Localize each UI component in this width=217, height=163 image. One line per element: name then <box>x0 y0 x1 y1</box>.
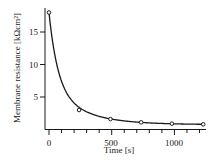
x-tick-0: 0 <box>47 138 52 148</box>
y-tick-labels: 5 10 15 <box>29 27 39 102</box>
data-point <box>201 123 205 127</box>
data-points <box>47 11 205 126</box>
y-tick-5: 5 <box>34 92 39 102</box>
x-tick-1000: 1000 <box>165 138 184 148</box>
data-point <box>77 108 81 112</box>
axes <box>45 8 206 130</box>
x-ticks <box>49 130 199 136</box>
data-point <box>139 121 143 125</box>
y-axis-label: Membrane resistance [kΩcm²] <box>12 13 22 123</box>
y-ticks <box>40 32 45 97</box>
data-point <box>170 122 174 126</box>
membrane-resistance-chart: 5 10 15 0 500 1000 Time [s] Membrane res… <box>0 0 217 163</box>
data-point <box>109 117 113 121</box>
data-point <box>47 11 51 15</box>
fit-curve <box>49 13 203 125</box>
y-tick-15: 15 <box>29 27 39 37</box>
y-tick-10: 10 <box>29 60 39 70</box>
x-axis-label: Time [s] <box>104 145 134 155</box>
